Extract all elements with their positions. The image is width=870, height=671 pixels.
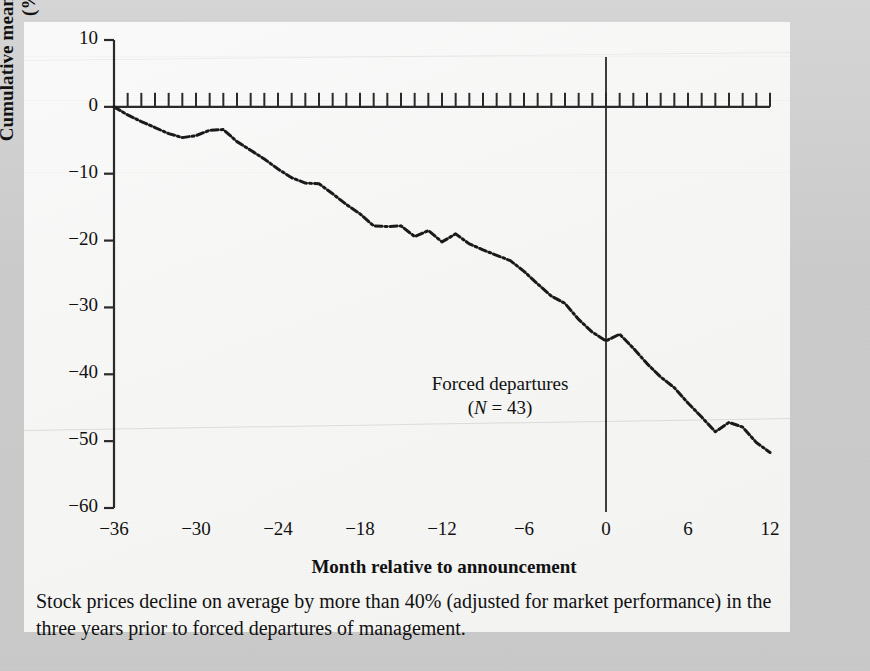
figure-panel xyxy=(24,22,790,632)
x-tick-label: 0 xyxy=(576,518,636,540)
chart-annotation: Forced departures (N = 43) xyxy=(380,372,620,420)
x-tick-label: −18 xyxy=(330,518,390,540)
x-tick-label: −24 xyxy=(248,518,308,540)
x-tick-label: −12 xyxy=(412,518,472,540)
x-tick-label: 6 xyxy=(658,518,718,540)
annotation-n-value: = 43) xyxy=(487,397,533,418)
y-tick-label: −10 xyxy=(28,161,98,183)
x-tick-label: −36 xyxy=(84,518,144,540)
figure-page: Cumulative mean prediction error (%) 100… xyxy=(0,0,870,671)
y-tick-label: 0 xyxy=(28,94,98,116)
y-tick-label: −60 xyxy=(28,495,98,517)
y-tick-label: −30 xyxy=(28,294,98,316)
figure-caption: Stock prices decline on average by more … xyxy=(36,588,776,641)
y-tick-label: −50 xyxy=(28,428,98,450)
y-tick-label: 10 xyxy=(28,27,98,49)
y-tick-label: −40 xyxy=(28,361,98,383)
y-tick-label: −20 xyxy=(28,228,98,250)
annotation-line-2: (N = 43) xyxy=(380,396,620,420)
x-tick-label: 12 xyxy=(740,518,800,540)
annotation-line-1: Forced departures xyxy=(380,372,620,396)
x-tick-label: −6 xyxy=(494,518,554,540)
annotation-n-symbol: N xyxy=(474,397,487,418)
y-axis-title: Cumulative mean prediction error (%) xyxy=(0,0,40,150)
x-axis-title: Month relative to announcement xyxy=(114,556,774,578)
x-tick-label: −30 xyxy=(166,518,226,540)
